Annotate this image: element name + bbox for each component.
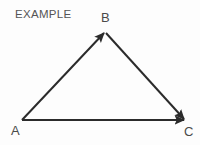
vector-triangle-diagram: EXAMPLE A B C	[0, 0, 200, 145]
vector-a-to-b	[22, 33, 104, 120]
diagram-canvas	[0, 0, 200, 145]
vector-b-to-c	[106, 33, 184, 119]
